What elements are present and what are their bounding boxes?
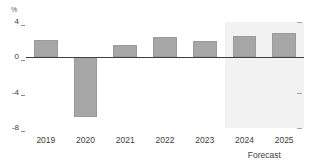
- y-tick-label-minus-8: -8: [0, 124, 19, 132]
- y-tick-label-4: 4: [0, 18, 19, 26]
- forecast-caption: Forecast: [225, 151, 304, 160]
- right-tick-mark-0: [297, 22, 302, 23]
- zero-baseline: [26, 57, 304, 58]
- y-tick-mark-0: [21, 60, 25, 61]
- bar-2023: [193, 41, 217, 57]
- y-axis-unit-label: %: [11, 6, 17, 13]
- x-tick-label-2019: 2019: [26, 136, 66, 145]
- bar-2025: [272, 33, 296, 57]
- x-tick-label-2024: 2024: [225, 136, 265, 145]
- x-tick-label-2021: 2021: [105, 136, 145, 145]
- x-tick-label-2023: 2023: [185, 136, 225, 145]
- bar-2024: [233, 36, 257, 57]
- plot-area: [26, 22, 304, 128]
- y-tick-label-minus-4: -4: [0, 89, 19, 97]
- bar-2020: [74, 57, 98, 116]
- right-tick-mark-3: [297, 128, 302, 129]
- y-tick-label-0: 0: [0, 53, 19, 61]
- bar-2019: [34, 40, 58, 58]
- right-tick-mark-2: [297, 93, 302, 94]
- x-tick-label-2022: 2022: [145, 136, 185, 145]
- bar-chart: % 4 0 -4 -8 2019202020212022202320242025…: [0, 0, 314, 165]
- y-tick-mark-minus-8: [21, 131, 25, 132]
- x-tick-label-2025: 2025: [264, 136, 304, 145]
- bar-2022: [153, 37, 177, 57]
- y-tick-mark-4: [21, 25, 25, 26]
- bar-2021: [113, 45, 137, 57]
- x-tick-label-2020: 2020: [66, 136, 106, 145]
- y-tick-mark-minus-4: [21, 95, 25, 96]
